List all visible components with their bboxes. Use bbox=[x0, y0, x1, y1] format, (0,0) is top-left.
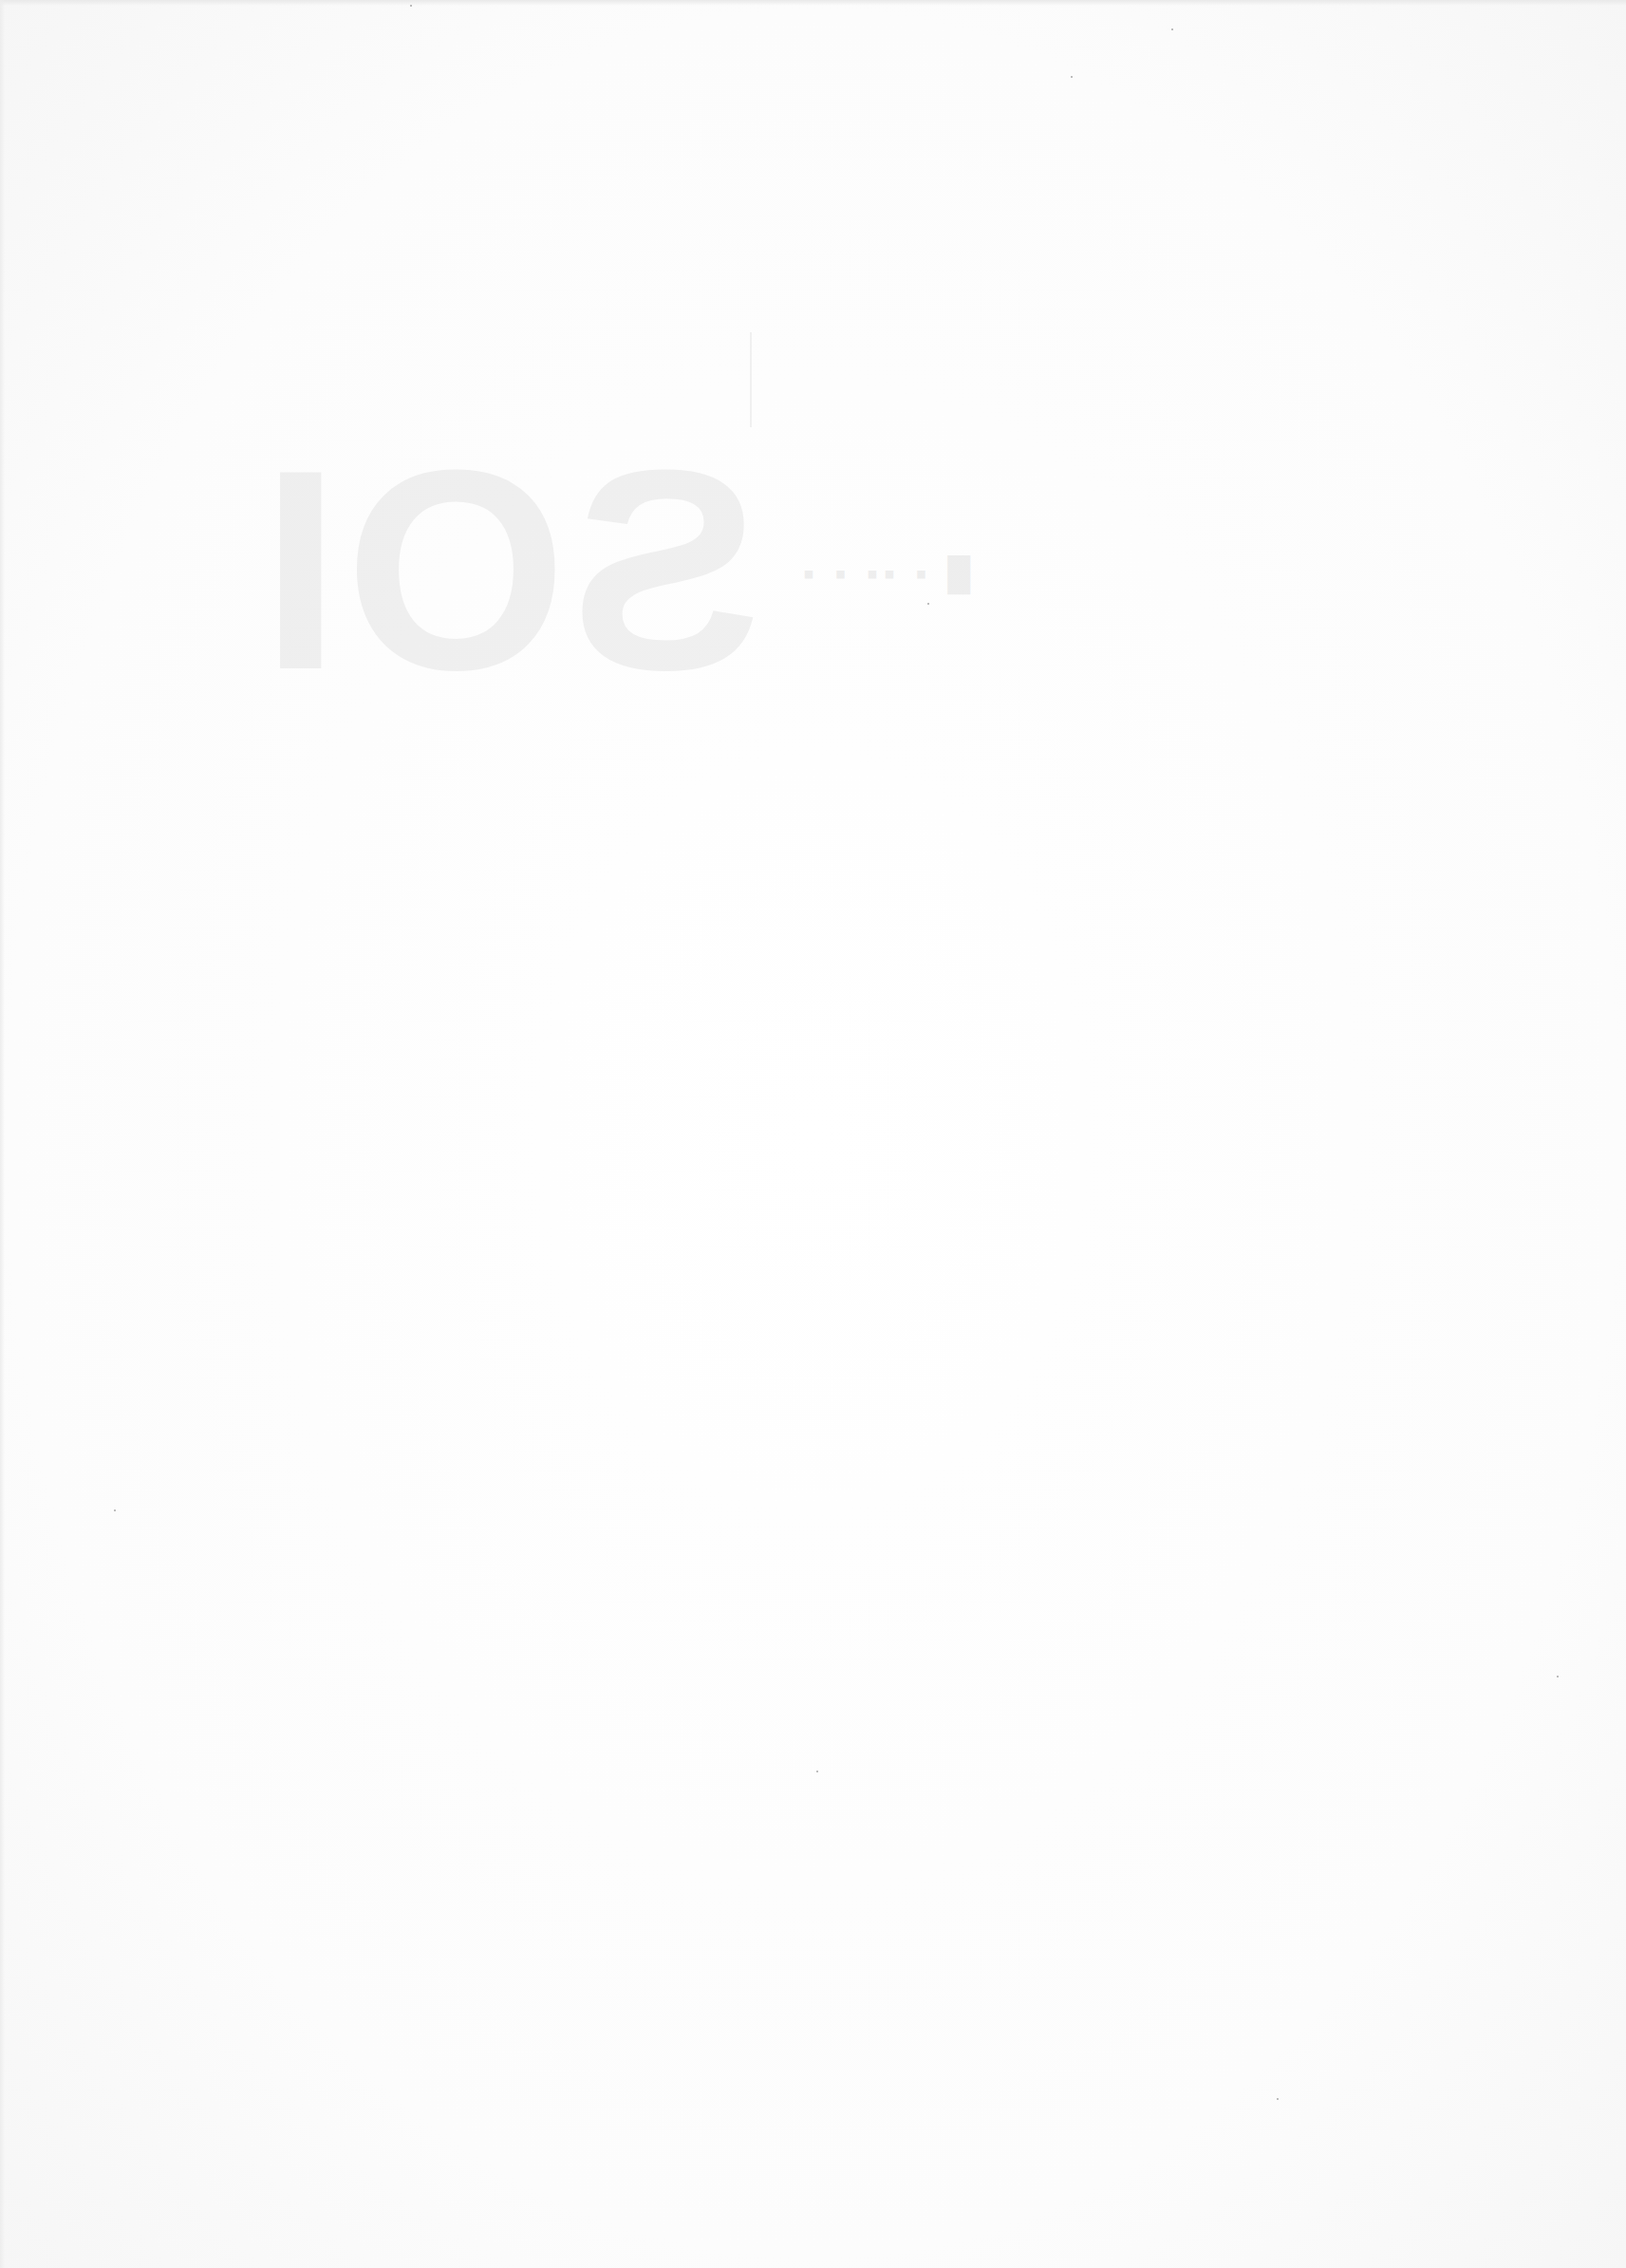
bleed-through-small-text: █ ▪ ▪▪ ▪ ▪ bbox=[797, 555, 970, 592]
scan-speck bbox=[410, 5, 412, 7]
scan-speck bbox=[927, 603, 929, 605]
scan-speck bbox=[1071, 76, 1073, 78]
scan-speck bbox=[1557, 1676, 1559, 1678]
blank-page: S O I █ ▪ ▪▪ ▪ ▪ bbox=[0, 0, 1626, 2268]
bleed-through-large-glyphs: S O I bbox=[271, 427, 761, 712]
scan-speck bbox=[114, 1509, 116, 1511]
scan-left-edge-shadow bbox=[0, 0, 5, 2268]
scan-speck bbox=[1277, 2098, 1279, 2100]
scan-speck bbox=[816, 1771, 818, 1772]
scan-speck bbox=[1171, 28, 1173, 30]
scan-top-edge-shadow bbox=[0, 0, 1626, 6]
